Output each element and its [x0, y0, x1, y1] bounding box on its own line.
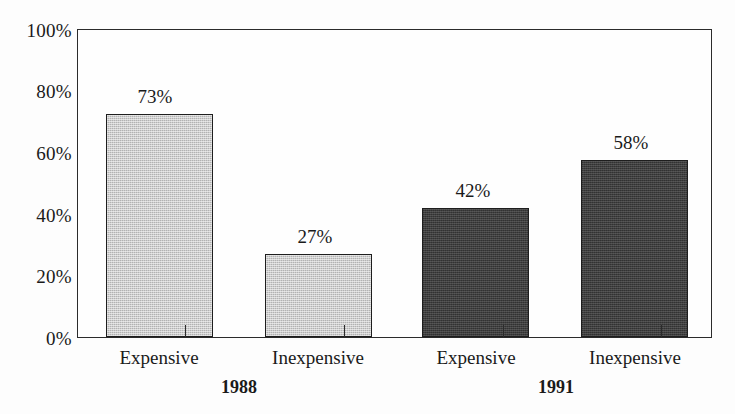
bar-1988-inexpensive[interactable]	[265, 254, 372, 337]
bar-1988-expensive[interactable]	[106, 114, 213, 337]
bar-value-label-1988-expensive: 73%	[55, 87, 255, 106]
x-axis-separator-2	[344, 325, 345, 337]
y-tick-label-40: 40%	[4, 206, 72, 225]
x-axis-separator-3	[503, 325, 504, 337]
x-category-label-1991-inexpensive: Inexpensive	[535, 348, 735, 367]
bar-chart-figure: 100% 80% 60% 40% 20% 0% 73% 27% 42% 58% …	[0, 0, 735, 414]
x-group-label-1991: 1991	[456, 378, 656, 396]
bar-value-label-1988-inexpensive: 27%	[215, 227, 415, 246]
bar-1991-inexpensive[interactable]	[581, 160, 688, 337]
x-axis-separator-4	[661, 325, 662, 337]
y-tick-label-60: 60%	[4, 144, 72, 163]
y-tick-label-0: 0%	[4, 329, 72, 348]
x-group-label-1988: 1988	[139, 378, 339, 396]
bar-value-label-1991-expensive: 42%	[373, 181, 573, 200]
bar-1991-expensive[interactable]	[422, 208, 529, 337]
bar-value-label-1991-inexpensive: 58%	[531, 133, 731, 152]
x-axis-separator-1	[185, 325, 186, 337]
y-tick-label-100: 100%	[4, 21, 72, 40]
y-tick-label-20: 20%	[4, 267, 72, 286]
